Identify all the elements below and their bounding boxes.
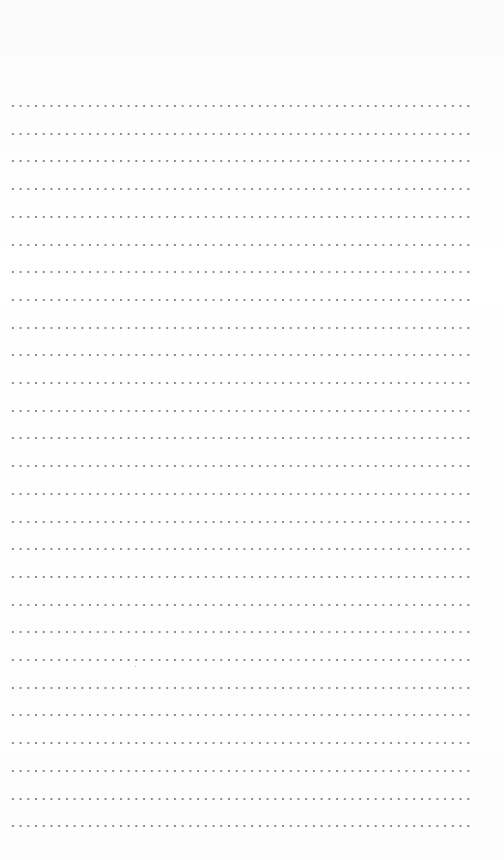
dotted-writing-line: [9, 160, 469, 162]
dotted-writing-line: [9, 133, 469, 135]
line-end-mark: [469, 271, 470, 273]
line-end-mark: [469, 714, 470, 716]
line-end-mark: [469, 742, 470, 744]
dotted-writing-line: [9, 493, 469, 495]
dotted-writing-line: [9, 521, 469, 523]
line-end-mark: [469, 521, 470, 523]
line-end-mark: [469, 160, 470, 162]
dotted-writing-line: [9, 105, 469, 107]
dotted-writing-line: [9, 631, 469, 633]
dotted-writing-line: [9, 659, 469, 661]
dotted-writing-line: [9, 798, 469, 800]
dotted-writing-line: [9, 437, 469, 439]
dotted-writing-line: [9, 770, 469, 772]
line-end-mark: [469, 299, 470, 301]
line-end-mark: [469, 659, 470, 661]
line-end-mark: [469, 631, 470, 633]
dotted-writing-line: [9, 410, 469, 412]
line-end-mark: [469, 133, 470, 135]
dotted-writing-line: [9, 465, 469, 467]
dotted-writing-sheet: [0, 0, 504, 860]
dotted-writing-line: [9, 216, 469, 218]
dotted-writing-line: [9, 299, 469, 301]
dotted-writing-line: [9, 604, 469, 606]
dotted-writing-line: [9, 271, 469, 273]
line-end-mark: [469, 327, 470, 329]
dotted-writing-line: [9, 188, 469, 190]
dotted-writing-line: [9, 576, 469, 578]
dotted-writing-line: [9, 354, 469, 356]
dotted-writing-line: [9, 825, 469, 827]
dotted-writing-line: [9, 244, 469, 246]
line-end-mark: [469, 105, 470, 107]
dotted-writing-line: [9, 742, 469, 744]
paper-speck: [135, 666, 136, 667]
line-end-mark: [469, 354, 470, 356]
dotted-writing-line: [9, 327, 469, 329]
line-end-mark: [469, 188, 470, 190]
line-end-mark: [469, 465, 470, 467]
line-end-mark: [469, 798, 470, 800]
dotted-writing-line: [9, 714, 469, 716]
line-end-mark: [469, 410, 470, 412]
line-end-mark: [469, 687, 470, 689]
line-end-mark: [469, 604, 470, 606]
dotted-writing-line: [9, 382, 469, 384]
line-end-mark: [469, 493, 470, 495]
line-end-mark: [469, 216, 470, 218]
line-end-mark: [469, 576, 470, 578]
dotted-writing-line: [9, 687, 469, 689]
dotted-writing-line: [9, 548, 469, 550]
line-end-mark: [469, 244, 470, 246]
line-end-mark: [469, 548, 470, 550]
line-end-mark: [469, 437, 470, 439]
line-end-mark: [469, 382, 470, 384]
line-end-mark: [469, 770, 470, 772]
line-end-mark: [469, 825, 470, 827]
